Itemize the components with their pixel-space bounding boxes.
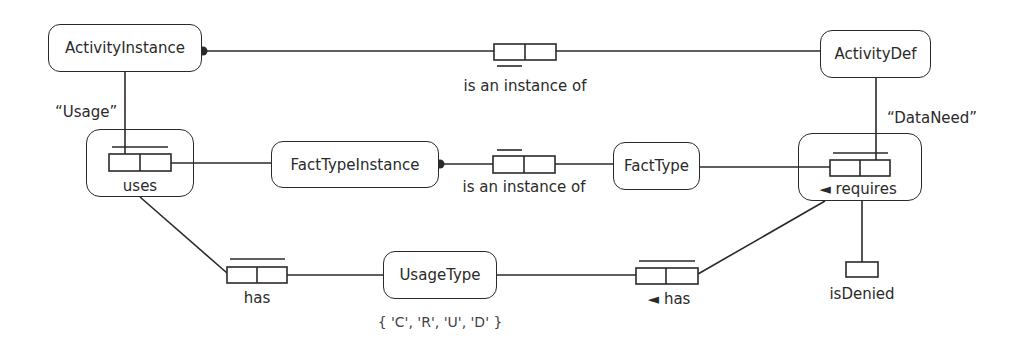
value-constraint-usage-type: { 'C', 'R', 'U', 'D' } <box>378 314 503 330</box>
reading-requires: ◄ requires <box>819 180 896 198</box>
reading-activity-instanceof: is an instance of <box>464 77 587 95</box>
reading-uses: uses <box>123 177 157 195</box>
role-box-dataneed-has[interactable] <box>636 268 698 284</box>
entity-activity-def[interactable]: ActivityDef <box>820 30 931 78</box>
entity-label: ActivityDef <box>834 45 916 63</box>
objectified-name-usage: “Usage” <box>55 103 117 121</box>
role-box-isdenied[interactable] <box>846 262 878 277</box>
entity-label: UsageType <box>399 266 480 284</box>
entity-usage-type[interactable]: UsageType <box>383 251 497 299</box>
objectified-name-dataneed: “DataNeed” <box>887 109 977 127</box>
connector-has-requires <box>698 201 825 274</box>
entity-label: FactType <box>624 157 689 175</box>
connector-uses-has <box>140 197 227 273</box>
entity-label: ActivityInstance <box>65 39 185 57</box>
entity-label: FactTypeInstance <box>291 156 420 174</box>
entity-activity-instance[interactable]: ActivityInstance <box>48 24 202 72</box>
entity-fact-type[interactable]: FactType <box>613 142 700 190</box>
reading-fact-instanceof: is an instance of <box>463 178 586 196</box>
entity-fact-type-instance[interactable]: FactTypeInstance <box>271 141 439 188</box>
reading-usage-has: has <box>244 289 271 307</box>
reading-isdenied: isDenied <box>829 285 894 303</box>
reading-dataneed-has: ◄ has <box>648 290 691 308</box>
